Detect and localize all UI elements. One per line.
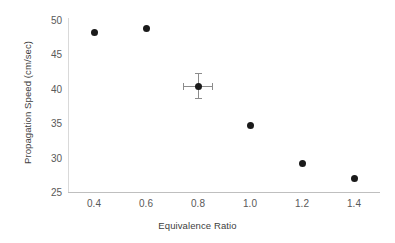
data-point [351, 175, 358, 182]
y-axis-tick-label: 35 [51, 118, 62, 129]
data-point [195, 83, 202, 90]
y-axis-tick-label: 40 [51, 83, 62, 94]
y-axis-tick-label: 30 [51, 152, 62, 163]
x-axis-tick-label: 0.4 [87, 198, 101, 209]
data-point [247, 122, 254, 129]
y-axis-tick-label: 45 [51, 49, 62, 60]
error-bar-cap [212, 83, 213, 90]
x-axis-tick-label: 1.0 [243, 198, 257, 209]
error-bar-cap [195, 98, 202, 99]
y-axis-tick-label: 50 [51, 15, 62, 26]
plot-area: 2530354045500.40.60.81.01.21.4 [68, 20, 380, 192]
scatter-chart: Propagation Speed (cm/sec) 2530354045500… [0, 0, 395, 243]
y-axis-title: Propagation Speed (cm/sec) [22, 18, 33, 188]
x-axis-tick-label: 0.8 [191, 198, 205, 209]
y-axis-tick-label: 25 [51, 187, 62, 198]
x-axis-line [68, 192, 380, 193]
data-point [299, 160, 306, 167]
data-point [91, 29, 98, 36]
x-axis-tick-label: 0.6 [139, 198, 153, 209]
x-axis-tick-label: 1.2 [295, 198, 309, 209]
data-point [143, 25, 150, 32]
error-bar-cap [195, 73, 202, 74]
x-axis-tick-label: 1.4 [347, 198, 361, 209]
x-axis-title: Equivalence Ratio [0, 220, 395, 231]
error-bar-cap [183, 83, 184, 90]
